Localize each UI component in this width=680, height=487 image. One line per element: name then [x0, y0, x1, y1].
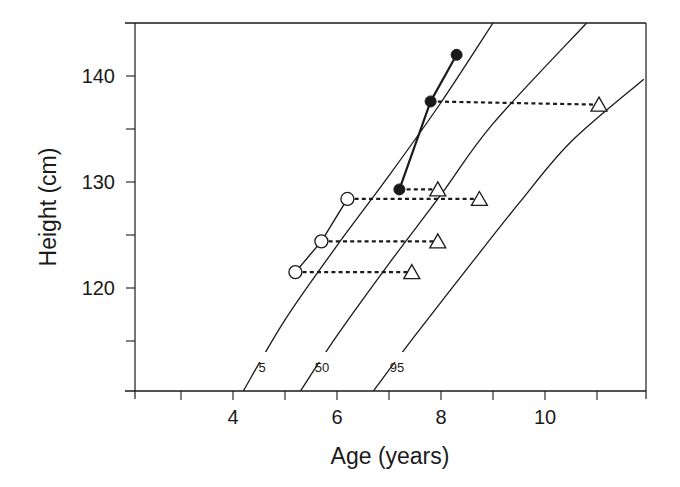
y-tick-label: 140 — [82, 65, 115, 87]
dotted-link — [431, 101, 597, 104]
filled-circle-marker — [425, 96, 436, 107]
y-tick-label: 120 — [82, 277, 115, 299]
y-tick-label: 130 — [82, 171, 115, 193]
open-circle-marker — [315, 235, 328, 248]
x-axis: 46810 — [181, 391, 597, 428]
x-tick-label: 4 — [227, 406, 238, 428]
percentile-curve-95 — [373, 79, 643, 391]
percentile-label-5: 5 — [258, 360, 265, 375]
percentile-label-95: 95 — [390, 360, 404, 375]
x-tick-label: 6 — [331, 406, 342, 428]
y-axis: 120130140 — [82, 65, 135, 341]
open-triangle-marker — [591, 97, 607, 111]
growth-chart: 46810 120130140 55095 Age (years) Height… — [0, 0, 680, 487]
percentile-curve-5 — [243, 23, 493, 391]
percentile-label-50: 50 — [315, 360, 329, 375]
data-series — [289, 49, 607, 278]
open-circle-marker — [341, 192, 354, 205]
open-circle-marker — [289, 266, 302, 279]
filled-circle-marker — [451, 49, 462, 60]
x-axis-title: Age (years) — [331, 443, 450, 469]
x-tick-label: 8 — [435, 406, 446, 428]
plot-frame — [125, 23, 646, 399]
y-axis-title: Height (cm) — [35, 148, 61, 267]
x-tick-label: 10 — [534, 406, 556, 428]
filled-circle-marker — [394, 184, 405, 195]
